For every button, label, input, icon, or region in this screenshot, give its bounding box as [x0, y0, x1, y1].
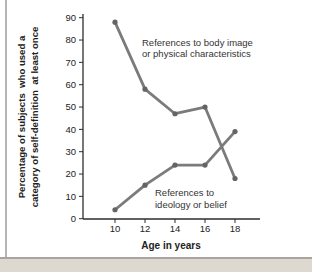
- y-tick-label: 0: [71, 213, 76, 224]
- body-image-line-point: [232, 176, 237, 181]
- ideology-line-point: [172, 163, 177, 168]
- series-annotation: References to body imageor physical char…: [142, 37, 253, 60]
- series-annotation: References toideology or belief: [155, 187, 227, 210]
- ideology-line-point: [202, 163, 207, 168]
- y-tick-label: 50: [65, 101, 76, 112]
- series-annotation-line: ideology or belief: [155, 199, 227, 210]
- y-tick-label: 20: [65, 168, 76, 179]
- y-tick-label: 10: [65, 191, 76, 202]
- ideology-line-point: [232, 129, 237, 134]
- series-annotation-line: or physical characteristics: [142, 48, 251, 59]
- ideology-line-point: [112, 207, 117, 212]
- y-tick-label: 30: [65, 146, 76, 157]
- x-tick-label: 10: [110, 223, 121, 234]
- ideology-line-point: [142, 183, 147, 188]
- y-axis-title-line2: category of self-definition at least onc…: [29, 27, 40, 208]
- y-tick-label: 40: [65, 124, 76, 135]
- x-tick-label: 14: [170, 223, 181, 234]
- figure-svg: 01020304050607080901012141618Age in year…: [0, 0, 312, 272]
- frame-left-rule: [5, 0, 7, 259]
- body-image-line-point: [202, 104, 207, 109]
- x-tick-label: 16: [200, 223, 211, 234]
- textbook-figure: 01020304050607080901012141618Age in year…: [0, 0, 312, 272]
- body-image-line-point: [142, 87, 147, 92]
- x-tick-label: 18: [230, 223, 241, 234]
- series-annotation-line: References to: [155, 187, 214, 198]
- x-axis-title: Age in years: [141, 240, 201, 251]
- body-image-line-point: [172, 111, 177, 116]
- body-image-line-point: [112, 20, 117, 25]
- y-axis-title-line1: Percentage of subjects who used a: [16, 35, 27, 198]
- series-annotation-line: References to body image: [142, 37, 253, 48]
- x-tick-label: 12: [140, 223, 151, 234]
- y-axis-title: Percentage of subjects who used acategor…: [16, 27, 40, 208]
- y-tick-label: 70: [65, 57, 76, 68]
- y-tick-label: 80: [65, 34, 76, 45]
- frame-bottom-strip: [0, 259, 312, 272]
- y-tick-label: 90: [65, 12, 76, 23]
- y-tick-label: 60: [65, 79, 76, 90]
